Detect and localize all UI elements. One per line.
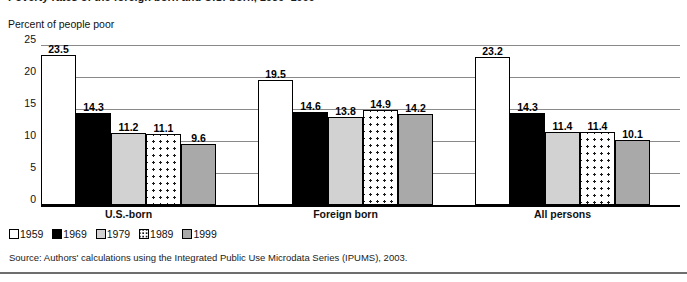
y-axis-tick-label: 20 — [24, 65, 36, 77]
bar-all-persons-1989: 11.4 — [580, 132, 615, 205]
bar-all-persons-1999: 10.1 — [615, 140, 650, 205]
legend-label: 1999 — [193, 228, 216, 240]
cropped-figure-title: Poverty rates of the foreign born and U.… — [0, 0, 687, 6]
legend-label: 1979 — [107, 228, 130, 240]
black-swatch — [52, 229, 62, 239]
bar-value-label: 23.5 — [48, 43, 68, 55]
y-axis-caption: Percent of people poor — [8, 18, 114, 30]
legend-label: 1959 — [20, 228, 43, 240]
chart-legend: 19591969197919891999 — [9, 228, 217, 240]
lightgray-swatch — [96, 229, 106, 239]
bar-all-persons-1979: 11.4 — [545, 132, 580, 205]
legend-item-1969[interactable]: 1969 — [52, 228, 86, 240]
gridline: 20 — [41, 77, 680, 78]
y-axis-tick-label: 10 — [24, 129, 36, 141]
plot-area: 0510152025 23.514.311.211.19.619.514.613… — [41, 45, 680, 205]
bar-value-label: 14.3 — [517, 101, 537, 113]
bar-value-label: 9.6 — [191, 132, 206, 144]
bar-u-s-born-1959: 23.5 — [41, 55, 76, 205]
category-label-foreign-born: Foreign born — [313, 208, 378, 220]
bar-value-label: 14.3 — [83, 101, 103, 113]
bar-foreign-born-1989: 14.9 — [363, 110, 398, 205]
bar-u-s-born-1979: 11.2 — [111, 133, 146, 205]
category-label-all-persons: All persons — [534, 208, 591, 220]
legend-label: 1989 — [150, 228, 173, 240]
bar-u-s-born-1969: 14.3 — [76, 113, 111, 205]
bar-value-label: 19.5 — [265, 68, 285, 80]
bottom-divider — [0, 272, 687, 274]
dotted-swatch — [139, 229, 149, 239]
bar-foreign-born-1999: 14.2 — [398, 114, 433, 205]
y-axis-tick-label: 5 — [30, 161, 36, 173]
bar-value-label: 10.1 — [622, 128, 642, 140]
y-axis-tick-label: 25 — [24, 33, 36, 45]
midgray-swatch — [182, 229, 192, 239]
bar-value-label: 14.9 — [370, 98, 390, 110]
legend-label: 1969 — [63, 228, 86, 240]
poverty-rate-bar-chart-figure: Poverty rates of the foreign born and U.… — [0, 0, 687, 282]
legend-item-1959[interactable]: 1959 — [9, 228, 43, 240]
y-axis-tick-label: 0 — [30, 193, 36, 205]
bar-all-persons-1959: 23.2 — [475, 57, 510, 205]
category-label-u-s-born: U.S.-born — [105, 208, 152, 220]
bar-value-label: 11.1 — [154, 122, 174, 134]
gridline: 25 — [41, 45, 680, 46]
bar-value-label: 11.2 — [119, 121, 139, 133]
bar-value-label: 11.4 — [553, 120, 573, 132]
bar-u-s-born-1989: 11.1 — [146, 134, 181, 205]
white-swatch — [9, 229, 19, 239]
legend-item-1979[interactable]: 1979 — [96, 228, 130, 240]
axis-baseline: 0 — [41, 205, 680, 207]
bar-u-s-born-1999: 9.6 — [181, 144, 216, 205]
bar-foreign-born-1969: 14.6 — [293, 112, 328, 205]
bar-value-label: 14.2 — [405, 102, 425, 114]
bar-foreign-born-1959: 19.5 — [258, 80, 293, 205]
bar-value-label: 14.6 — [300, 100, 320, 112]
bar-value-label: 13.8 — [335, 105, 355, 117]
bar-all-persons-1969: 14.3 — [510, 113, 545, 205]
source-note: Source: Authors' calculations using the … — [9, 252, 407, 263]
legend-item-1999[interactable]: 1999 — [182, 228, 216, 240]
legend-item-1989[interactable]: 1989 — [139, 228, 173, 240]
bar-foreign-born-1979: 13.8 — [328, 117, 363, 205]
figure-title-text: Poverty rates of the foreign born and U.… — [8, 0, 315, 3]
bar-value-label: 23.2 — [482, 45, 502, 57]
y-axis-tick-label: 15 — [24, 97, 36, 109]
bar-value-label: 11.4 — [588, 120, 608, 132]
gridline: 15 — [41, 109, 680, 110]
